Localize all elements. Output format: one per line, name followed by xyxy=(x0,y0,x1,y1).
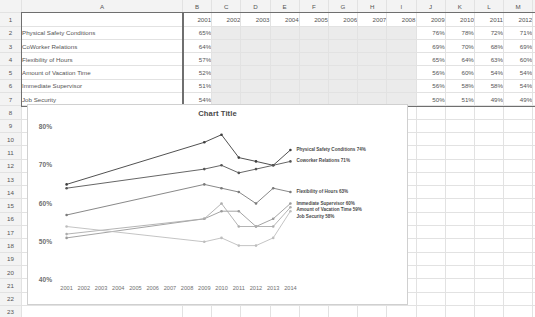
cell-M17[interactable] xyxy=(504,226,533,239)
cell-K21[interactable] xyxy=(445,279,474,292)
cell-K20[interactable] xyxy=(445,265,474,278)
cell-L20[interactable] xyxy=(474,265,503,278)
cell-L17[interactable] xyxy=(474,226,503,239)
row-header-14[interactable]: 14 xyxy=(0,186,22,199)
column-header-C[interactable]: C xyxy=(212,0,241,13)
cell-G6[interactable] xyxy=(328,79,357,92)
cell-B23[interactable] xyxy=(183,305,212,317)
cell-M23[interactable] xyxy=(504,305,533,317)
cell-I6[interactable] xyxy=(387,79,416,92)
cell-A6[interactable]: Immediate Supervisor xyxy=(22,79,183,92)
cell-J14[interactable] xyxy=(416,186,445,199)
cell-F3[interactable] xyxy=(299,39,328,52)
cell-I3[interactable] xyxy=(387,39,416,52)
cell-J8[interactable] xyxy=(416,106,445,119)
cell-E3[interactable] xyxy=(270,39,299,52)
cell-A2[interactable]: Physical Safety Conditions xyxy=(22,26,183,39)
cell-A23[interactable] xyxy=(22,305,183,317)
cell-L13[interactable] xyxy=(474,172,503,185)
cell-I1[interactable]: 2008 xyxy=(387,13,416,26)
row-header-16[interactable]: 16 xyxy=(0,212,22,225)
cell-A1[interactable] xyxy=(22,13,183,26)
cell-M5[interactable]: 54% xyxy=(504,66,533,79)
cell-M15[interactable] xyxy=(504,199,533,212)
cell-L6[interactable]: 58% xyxy=(474,79,503,92)
cell-L1[interactable]: 2011 xyxy=(474,13,503,26)
cell-L23[interactable] xyxy=(474,305,503,317)
cell-H3[interactable] xyxy=(358,39,387,52)
table-row[interactable]: 4Flexibility of Hours57%65%64%63%60%64%6… xyxy=(0,53,535,66)
cell-D4[interactable] xyxy=(241,53,270,66)
cell-L5[interactable]: 54% xyxy=(474,66,503,79)
table-row[interactable]: 2Physical Safety Conditions65%76%78%72%7… xyxy=(0,26,535,39)
cell-E1[interactable]: 2004 xyxy=(270,13,299,26)
row-header-9[interactable]: 9 xyxy=(0,119,22,132)
cell-J9[interactable] xyxy=(416,119,445,132)
cell-M16[interactable] xyxy=(504,212,533,225)
cell-L2[interactable]: 72% xyxy=(474,26,503,39)
cell-J16[interactable] xyxy=(416,212,445,225)
cell-J15[interactable] xyxy=(416,199,445,212)
column-header-E[interactable]: E xyxy=(270,0,299,13)
cell-M2[interactable]: 71% xyxy=(504,26,533,39)
cell-K6[interactable]: 58% xyxy=(445,79,474,92)
cell-J7[interactable]: 50% xyxy=(416,93,445,106)
cell-I2[interactable] xyxy=(387,26,416,39)
cell-K22[interactable] xyxy=(445,292,474,305)
row-header-12[interactable]: 12 xyxy=(0,159,22,172)
column-header-M[interactable]: M xyxy=(504,0,533,13)
cell-I5[interactable] xyxy=(387,66,416,79)
column-header-F[interactable]: F xyxy=(299,0,328,13)
cell-M1[interactable]: 2012 xyxy=(504,13,533,26)
cell-G5[interactable] xyxy=(328,66,357,79)
cell-J17[interactable] xyxy=(416,226,445,239)
row-header-2[interactable]: 2 xyxy=(0,26,22,39)
cell-F2[interactable] xyxy=(299,26,328,39)
row-header-18[interactable]: 18 xyxy=(0,239,22,252)
table-row[interactable]: 1200120022003200420052006200720082009201… xyxy=(0,13,535,26)
column-header-L[interactable]: L xyxy=(474,0,503,13)
cell-K1[interactable]: 2010 xyxy=(445,13,474,26)
cell-H5[interactable] xyxy=(358,66,387,79)
chart-object[interactable]: Chart Title 40%50%60%70%80%2001200220032… xyxy=(27,104,408,305)
cell-D2[interactable] xyxy=(241,26,270,39)
cell-F4[interactable] xyxy=(299,53,328,66)
cell-M11[interactable] xyxy=(504,146,533,159)
cell-J13[interactable] xyxy=(416,172,445,185)
cell-J3[interactable]: 69% xyxy=(416,39,445,52)
column-header-K[interactable]: K xyxy=(445,0,474,13)
cell-A5[interactable]: Amount of Vacation Time xyxy=(22,66,183,79)
cell-D6[interactable] xyxy=(241,79,270,92)
cell-L10[interactable] xyxy=(474,132,503,145)
row-header-13[interactable]: 13 xyxy=(0,172,22,185)
cell-F1[interactable]: 2005 xyxy=(299,13,328,26)
cell-B3[interactable]: 64% xyxy=(183,39,212,52)
row-header-7[interactable]: 7 xyxy=(0,93,22,106)
row-header-1[interactable]: 1 xyxy=(0,13,22,26)
cell-L3[interactable]: 68% xyxy=(474,39,503,52)
row-header-6[interactable]: 6 xyxy=(0,79,22,92)
cell-B2[interactable]: 65% xyxy=(183,26,212,39)
cell-H23[interactable] xyxy=(358,305,387,317)
cell-J18[interactable] xyxy=(416,239,445,252)
cell-C4[interactable] xyxy=(212,53,241,66)
column-header-J[interactable]: J xyxy=(416,0,445,13)
cell-H4[interactable] xyxy=(358,53,387,66)
cell-L19[interactable] xyxy=(474,252,503,265)
cell-L18[interactable] xyxy=(474,239,503,252)
cell-D3[interactable] xyxy=(241,39,270,52)
cell-E4[interactable] xyxy=(270,53,299,66)
column-header-I[interactable]: I xyxy=(387,0,416,13)
table-row[interactable]: 23 xyxy=(0,305,535,317)
cell-G4[interactable] xyxy=(328,53,357,66)
cell-A4[interactable]: Flexibility of Hours xyxy=(22,53,183,66)
cell-E2[interactable] xyxy=(270,26,299,39)
cell-M12[interactable] xyxy=(504,159,533,172)
cell-M3[interactable]: 69% xyxy=(504,39,533,52)
cell-C2[interactable] xyxy=(212,26,241,39)
cell-M4[interactable]: 60% xyxy=(504,53,533,66)
cell-K15[interactable] xyxy=(445,199,474,212)
cell-H6[interactable] xyxy=(358,79,387,92)
spreadsheet-canvas[interactable]: ABCDEFGHIJKLMNO 120012002200320042005200… xyxy=(0,0,535,317)
cell-A3[interactable]: CoWorker Relations xyxy=(22,39,183,52)
